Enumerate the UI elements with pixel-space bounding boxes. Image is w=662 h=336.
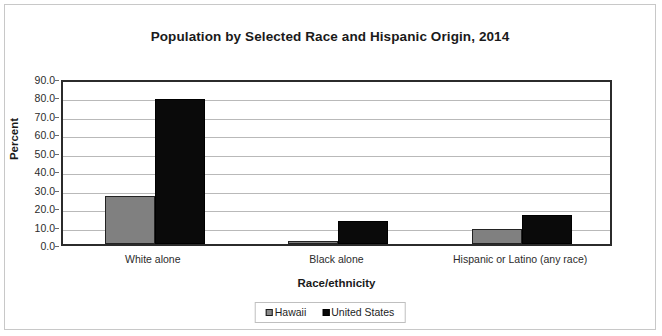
bar-group [430, 82, 612, 244]
y-axis-tick-label: 70.0 [9, 111, 55, 123]
legend-swatch-icon [322, 309, 329, 316]
y-axis-tick-labels: 90.080.070.060.050.040.030.020.010.00.0 [5, 71, 55, 247]
legend-item-hawaii[interactable]: Hawaii [266, 306, 307, 318]
bar-hawaii[interactable] [105, 196, 155, 244]
bar-hawaii[interactable] [472, 229, 522, 244]
bar-united-states[interactable] [522, 215, 572, 244]
y-axis-tick-label: 40.0 [9, 166, 55, 178]
y-axis-tick-mark [55, 228, 59, 229]
legend-swatch-icon [266, 309, 273, 316]
y-axis-tick-label: 30.0 [9, 185, 55, 197]
y-axis-tick-label: 10.0 [9, 222, 55, 234]
x-axis-tick-label: Black alone [245, 253, 429, 265]
chart-container: Population by Selected Race and Hispanic… [4, 4, 656, 330]
legend-label: Hawaii [275, 306, 307, 318]
y-axis-tick-mark [55, 117, 59, 118]
legend-label: United States [331, 306, 394, 318]
y-axis-tick-mark [55, 135, 59, 136]
y-axis-tick-mark [55, 209, 59, 210]
y-axis-tick-mark [55, 80, 59, 81]
bar-group [63, 82, 247, 244]
bar-united-states[interactable] [338, 221, 388, 244]
plot-area [61, 80, 612, 246]
x-axis-title: Race/ethnicity [61, 277, 612, 289]
y-axis-tick-label: 80.0 [9, 92, 55, 104]
y-axis-tick-mark [55, 246, 59, 247]
x-axis-tick-label: Hispanic or Latino (any race) [428, 253, 612, 265]
y-axis-tick-mark [55, 172, 59, 173]
bar-hawaii[interactable] [288, 241, 338, 244]
chart-title: Population by Selected Race and Hispanic… [5, 29, 655, 44]
y-axis-tick-label: 50.0 [9, 148, 55, 160]
y-axis-tick-label: 90.0 [9, 74, 55, 86]
y-axis-tick-label: 60.0 [9, 129, 55, 141]
legend-item-united-states[interactable]: United States [322, 306, 394, 318]
y-axis-tick-mark [55, 154, 59, 155]
y-axis-tick-label: 0.0 [9, 240, 55, 252]
y-axis-tick-mark [55, 98, 59, 99]
x-axis-tick-label: White alone [61, 253, 245, 265]
plot-wrapper [61, 71, 612, 247]
y-axis-tick-mark [55, 191, 59, 192]
bar-united-states[interactable] [155, 99, 205, 244]
chart-legend: HawaiiUnited States [255, 302, 406, 323]
bar-group [247, 82, 431, 244]
y-axis-tick-label: 20.0 [9, 203, 55, 215]
x-axis-tick-labels: White aloneBlack aloneHispanic or Latino… [61, 253, 612, 269]
